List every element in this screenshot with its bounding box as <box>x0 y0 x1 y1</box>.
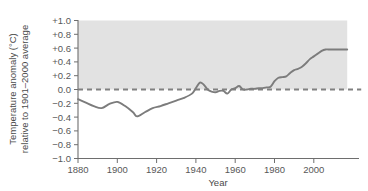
y-axis-title-line-1: Temperature anomaly (°C) <box>7 33 18 145</box>
y-tick-label: +1.0 <box>52 15 71 26</box>
chart-canvas: +1.0+0.8+0.6+0.4+0.20.0−0.2−0.4−0.6−0.8−… <box>0 0 368 191</box>
y-tick-label: 0.0 <box>58 84 71 95</box>
y-tick-label: −0.8 <box>52 139 71 150</box>
x-tick-label: 1940 <box>185 164 206 175</box>
y-tick-label: +0.2 <box>52 70 71 81</box>
x-tick-label: 2000 <box>303 164 324 175</box>
positive-anomaly-shaded-band <box>78 21 347 90</box>
x-tick-label: 1920 <box>146 164 167 175</box>
y-tick-label: +0.4 <box>52 56 71 67</box>
y-axis-title: Temperature anomaly (°C) relative to 190… <box>7 25 30 153</box>
y-tick-label: −0.6 <box>52 125 71 136</box>
x-tick-label: 1960 <box>225 164 246 175</box>
y-tick-label: −1.0 <box>52 153 71 164</box>
x-axis-title: Year <box>208 177 227 188</box>
x-tick-label: 1900 <box>107 164 128 175</box>
temperature-anomaly-chart: +1.0+0.8+0.6+0.4+0.20.0−0.2−0.4−0.6−0.8−… <box>0 0 368 191</box>
y-tick-label: −0.2 <box>52 98 71 109</box>
y-tick-label: +0.6 <box>52 43 71 54</box>
x-tick-label: 1980 <box>264 164 285 175</box>
y-tick-label: +0.8 <box>52 29 71 40</box>
x-tick-label: 1880 <box>67 164 88 175</box>
y-axis-title-line-2: relative to 1901–2000 average <box>19 25 30 153</box>
y-tick-label: −0.4 <box>52 112 71 123</box>
shaded-band-rect <box>78 21 347 90</box>
